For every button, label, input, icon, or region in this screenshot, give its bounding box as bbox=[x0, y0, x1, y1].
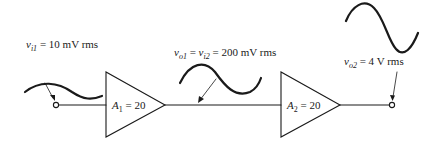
input-eq: = bbox=[37, 38, 49, 50]
cascade-amplifier-diagram: vi1 = 10 mV rms A1 = 20 vo1 = vi2 = 200 … bbox=[0, 0, 433, 150]
amplifier-1-gain: 20 bbox=[134, 99, 146, 111]
output-waveform bbox=[346, 4, 418, 53]
mid-waveform bbox=[180, 65, 261, 94]
input-terminal bbox=[53, 102, 58, 107]
output-pointer-arrow bbox=[393, 72, 397, 97]
amplifier-2-eq: = bbox=[298, 99, 310, 111]
output-signal-label: vo2 = 4 V rms bbox=[344, 55, 404, 70]
input-waveform bbox=[25, 84, 102, 99]
input-signal-label: vi1 = 10 mV rms bbox=[26, 38, 98, 53]
mid-eq1: = bbox=[187, 46, 199, 58]
mid-pointer-arrowhead bbox=[198, 96, 204, 103]
mid-pointer-arrow bbox=[200, 79, 216, 100]
input-value: 10 mV rms bbox=[49, 38, 98, 50]
mid-value: 200 mV rms bbox=[221, 46, 276, 58]
amplifier-2-gain: 20 bbox=[309, 99, 321, 111]
mid-eq2: = bbox=[210, 46, 222, 58]
mid-var1-sub: o1 bbox=[179, 52, 187, 61]
mid-signal-label: vo1 = vi2 = 200 mV rms bbox=[174, 46, 276, 61]
amplifier-1-eq: = bbox=[123, 99, 135, 111]
output-terminal bbox=[389, 102, 394, 107]
output-pointer-arrowhead bbox=[390, 95, 395, 101]
output-value: 4 V rms bbox=[369, 55, 404, 67]
amplifier-2-label: A2 = 20 bbox=[286, 99, 321, 114]
output-var-sub: o2 bbox=[349, 61, 357, 70]
input-pointer-arrowhead bbox=[50, 95, 55, 101]
output-eq: = bbox=[357, 55, 369, 67]
amplifier-1-label: A1 = 20 bbox=[111, 99, 146, 114]
